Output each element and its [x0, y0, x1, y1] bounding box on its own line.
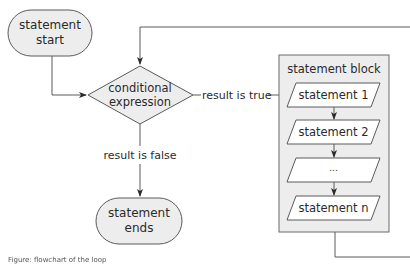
condition-label-line1: conditional: [95, 81, 185, 95]
start-label-line1: statement: [8, 18, 92, 33]
end-label-line1: statement: [96, 206, 182, 221]
false-edge-label: result is false: [100, 148, 180, 163]
true-edge-label: result is true: [202, 88, 268, 103]
statement-2-label: statement 2: [287, 125, 380, 140]
condition-label: conditional expression: [95, 81, 185, 109]
start-label: statement start: [8, 18, 92, 48]
statement-1-label: statement 1: [287, 88, 380, 103]
statement-ellipsis-label: ...: [287, 161, 380, 176]
end-label: statement ends: [96, 206, 182, 236]
condition-label-line2: expression: [95, 95, 185, 109]
block-exit-line: [335, 232, 410, 257]
end-label-line2: ends: [96, 221, 182, 236]
figure-caption: Figure: flowchart of the loop: [8, 256, 106, 264]
start-to-condition-arrow: [52, 56, 86, 95]
statement-block-title: statement block: [279, 62, 389, 77]
start-label-line2: start: [8, 33, 92, 48]
statement-n-label: statement n: [287, 201, 380, 216]
